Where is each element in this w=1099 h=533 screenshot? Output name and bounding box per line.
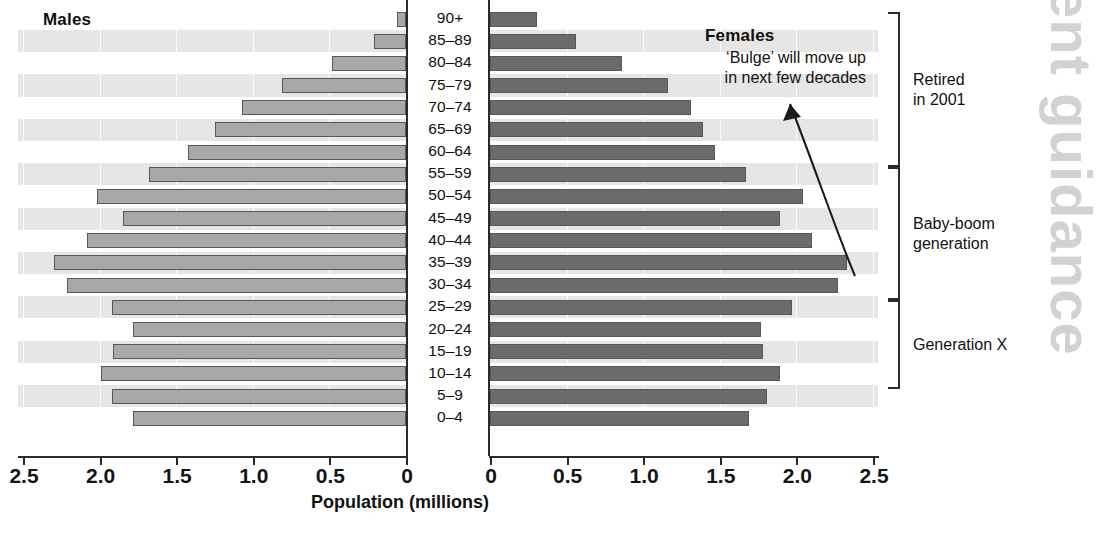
- bar-females-40–44: [490, 233, 812, 248]
- bar-males-10–14: [101, 366, 406, 381]
- row-band: [18, 30, 406, 52]
- bar-females-35–39: [490, 255, 847, 270]
- bar-males-75–79: [282, 78, 406, 93]
- bar-males-55–59: [149, 167, 406, 182]
- axis-tick-label: 1.5: [163, 464, 192, 488]
- age-group-axis: 90+85–8980–8475–7970–7465–6960–6455–5950…: [406, 0, 490, 456]
- axis-tick-label: 0: [401, 464, 413, 488]
- group-bracket-label-line2: generation: [913, 234, 995, 254]
- axis-tick-label: 1.0: [630, 464, 659, 488]
- females-heading: Females: [705, 26, 774, 46]
- bar-females-30–34: [490, 278, 838, 293]
- age-group-label: 20–24: [408, 320, 492, 338]
- bar-females-80–84: [490, 56, 622, 71]
- bar-females-65–69: [490, 122, 703, 137]
- bar-males-60–64: [188, 145, 406, 160]
- bar-females-25–29: [490, 300, 792, 315]
- bar-females-15–19: [490, 344, 763, 359]
- males-heading: Males: [43, 10, 91, 30]
- bar-males-80–84: [332, 56, 406, 71]
- vertical-gridline: [100, 0, 101, 456]
- watermark-text: ent guidance: [1035, 0, 1099, 456]
- age-group-label: 70–74: [408, 98, 492, 116]
- population-pyramid-chart: ent guidance 90+85–8980–8475–7970–7465–6…: [0, 0, 1099, 533]
- bar-females-45–49: [490, 211, 780, 226]
- axis-tick-label: 2.5: [859, 464, 888, 488]
- axis-tick-label: 1.5: [706, 464, 735, 488]
- axis-tick-label: 2.0: [86, 464, 115, 488]
- age-group-label: 90+: [408, 9, 492, 27]
- bar-females-90+: [490, 12, 537, 27]
- axis-tick-label: 0.5: [316, 464, 345, 488]
- bar-females-20–24: [490, 322, 761, 337]
- axis-tick-label: 0.5: [553, 464, 582, 488]
- age-group-label: 40–44: [408, 231, 492, 249]
- bar-females-85–89: [490, 34, 576, 49]
- group-bracket-label-line2: in 2001: [913, 90, 966, 110]
- bulge-annotation-line1: ‘Bulge’ will move up: [634, 48, 866, 68]
- group-bracket-label-line1: Generation X: [913, 335, 1007, 355]
- age-group-label: 10–14: [408, 364, 492, 382]
- bar-males-30–34: [67, 278, 406, 293]
- axis-title: Population (millions): [311, 492, 489, 513]
- group-bracket-label-line1: Retired: [913, 70, 966, 90]
- bar-females-60–64: [490, 145, 715, 160]
- age-group-label: 45–49: [408, 209, 492, 227]
- females-axis-line: [489, 456, 879, 458]
- males-axis-line: [18, 456, 408, 458]
- age-group-label: 55–59: [408, 164, 492, 182]
- group-bracket: [888, 300, 900, 389]
- bulge-annotation: ‘Bulge’ will move up in next few decades: [634, 48, 866, 87]
- age-group-label: 85–89: [408, 31, 492, 49]
- group-bracket: [888, 167, 900, 300]
- age-group-label: 25–29: [408, 297, 492, 315]
- age-group-label: 50–54: [408, 186, 492, 204]
- axis-tick-label: 1.0: [239, 464, 268, 488]
- males-plot-panel: [18, 0, 406, 456]
- bar-females-70–74: [490, 100, 691, 115]
- bulge-annotation-line2: in next few decades: [634, 68, 866, 88]
- bar-males-25–29: [112, 300, 406, 315]
- bar-males-15–19: [113, 344, 406, 359]
- vertical-gridline: [23, 0, 24, 456]
- group-bracket: [888, 12, 900, 167]
- age-group-label: 35–39: [408, 253, 492, 271]
- bar-males-20–24: [133, 322, 406, 337]
- bar-females-10–14: [490, 366, 780, 381]
- bar-males-50–54: [97, 189, 406, 204]
- bar-males-70–74: [242, 100, 406, 115]
- bar-females-5–9: [490, 389, 767, 404]
- group-bracket-label-line1: Baby-boom: [913, 214, 995, 234]
- age-group-label: 65–69: [408, 120, 492, 138]
- bar-females-50–54: [490, 189, 803, 204]
- vertical-gridline: [873, 0, 874, 456]
- age-group-label: 5–9: [408, 386, 492, 404]
- bar-males-40–44: [87, 233, 406, 248]
- age-group-label: 0–4: [408, 408, 492, 426]
- bar-females-0–4: [490, 411, 749, 426]
- bar-males-90+: [397, 12, 406, 27]
- age-group-label: 60–64: [408, 142, 492, 160]
- group-bracket-label: Retiredin 2001: [913, 70, 966, 110]
- axis-tick-label: 0: [485, 464, 497, 488]
- bar-males-45–49: [123, 211, 406, 226]
- bar-males-65–69: [215, 122, 407, 137]
- bar-males-35–39: [54, 255, 406, 270]
- bar-males-5–9: [112, 389, 406, 404]
- bar-males-0–4: [133, 411, 406, 426]
- group-bracket-label: Baby-boomgeneration: [913, 214, 995, 254]
- age-group-label: 15–19: [408, 342, 492, 360]
- axis-tick-label: 2.5: [9, 464, 38, 488]
- age-group-label: 80–84: [408, 53, 492, 71]
- age-group-label: 75–79: [408, 76, 492, 94]
- bar-females-55–59: [490, 167, 746, 182]
- axis-tick-label: 2.0: [783, 464, 812, 488]
- age-group-label: 30–34: [408, 275, 492, 293]
- group-bracket-label: Generation X: [913, 335, 1007, 355]
- bar-males-85–89: [374, 34, 406, 49]
